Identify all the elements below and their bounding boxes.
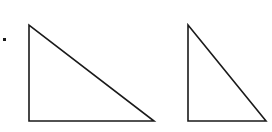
right-right-triangle	[188, 25, 266, 121]
bullet-marker	[3, 38, 6, 41]
triangles-figure	[0, 0, 272, 132]
left-right-triangle	[29, 25, 154, 121]
